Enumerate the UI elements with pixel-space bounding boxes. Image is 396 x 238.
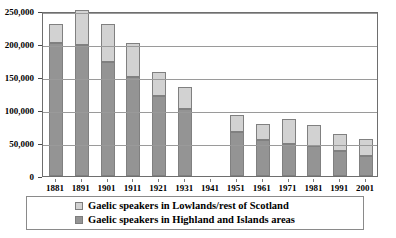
plot-area (42, 12, 378, 177)
bar-segment-highland (230, 132, 244, 176)
x-axis-tick-label-1901: 1901 (98, 183, 116, 193)
x-axis-tick (262, 179, 263, 182)
bar-segment-lowlands (75, 10, 89, 46)
y-axis-tick-label: 200,000 (5, 40, 34, 50)
dark-gray-swatch-icon (75, 216, 83, 224)
bar-segment-lowlands (333, 134, 347, 151)
x-axis-tick-label-1921: 1921 (149, 183, 167, 193)
x-axis-tick (339, 179, 340, 182)
x-axis-tick (210, 179, 211, 182)
x-axis-tick-label-1981: 1981 (304, 183, 322, 193)
x-axis-tick (132, 179, 133, 182)
x-axis-tick-label-1911: 1911 (124, 183, 142, 193)
x-axis-tick-label-1941: 1941 (201, 183, 219, 193)
x-axis: 1881189119011911192119311941195119611971… (42, 179, 378, 193)
x-axis-tick-label-1881: 1881 (46, 183, 64, 193)
light-gray-swatch-icon (75, 202, 83, 210)
legend-label-lowlands: Gaelic speakers in Lowlands/rest of Scot… (88, 200, 289, 211)
bar-segment-highland (333, 151, 347, 176)
x-axis-tick (184, 179, 185, 182)
x-axis-tick-label-1891: 1891 (72, 183, 90, 193)
bar-segment-lowlands (101, 24, 115, 62)
x-axis-tick-label-1961: 1961 (253, 183, 271, 193)
x-axis-tick (81, 179, 82, 182)
bar-segment-highland (178, 109, 192, 176)
gridline (43, 79, 377, 80)
x-axis-tick (313, 179, 314, 182)
x-axis-tick (55, 179, 56, 182)
bar-segment-lowlands (49, 24, 63, 44)
bar-segment-lowlands (256, 124, 270, 140)
legend-label-highland: Gaelic speakers in Highland and Islands … (88, 214, 295, 225)
x-axis-tick-label-1991: 1991 (330, 183, 348, 193)
chart-legend: Gaelic speakers in Lowlands/rest of Scot… (26, 196, 364, 230)
y-axis-tick (38, 177, 42, 178)
bars-container (43, 13, 377, 176)
x-axis-tick-label-1931: 1931 (175, 183, 193, 193)
x-axis-tick (236, 179, 237, 182)
legend-item-highland: Gaelic speakers in Highland and Islands … (75, 214, 295, 225)
gaelic-speakers-stacked-bar-chart: 050,000100,000150,000200,000250,000 1881… (0, 0, 396, 238)
legend-item-lowlands: Gaelic speakers in Lowlands/rest of Scot… (75, 200, 289, 211)
bar-segment-lowlands (126, 43, 140, 77)
gridline (43, 46, 377, 47)
gridline (43, 13, 377, 14)
y-axis-tick-label: 100,000 (5, 106, 34, 116)
bar-segment-highland (49, 43, 63, 176)
x-axis-tick-label-1971: 1971 (279, 183, 297, 193)
x-axis-tick (365, 179, 366, 182)
gridline (43, 112, 377, 113)
bar-segment-highland (359, 156, 373, 176)
bar-segment-lowlands (152, 72, 166, 96)
bar-segment-highland (282, 144, 296, 176)
bar-segment-highland (307, 146, 321, 176)
bar-segment-highland (152, 96, 166, 176)
y-axis-tick-label: 0 (30, 172, 35, 182)
x-axis-tick (107, 179, 108, 182)
y-axis-tick-label: 50,000 (9, 139, 34, 149)
bar-segment-highland (126, 77, 140, 176)
bar-segment-lowlands (307, 125, 321, 147)
bar-segment-lowlands (230, 115, 244, 132)
x-axis-tick-label-1951: 1951 (227, 183, 245, 193)
bar-segment-lowlands (359, 139, 373, 156)
y-axis-tick-label: 150,000 (5, 73, 34, 83)
gridline (43, 145, 377, 146)
x-axis-tick-label-2001: 2001 (356, 183, 374, 193)
bar-segment-lowlands (282, 119, 296, 144)
x-axis-tick (288, 179, 289, 182)
x-axis-tick (158, 179, 159, 182)
bar-segment-lowlands (178, 87, 192, 109)
y-axis-tick-label: 250,000 (5, 7, 34, 17)
